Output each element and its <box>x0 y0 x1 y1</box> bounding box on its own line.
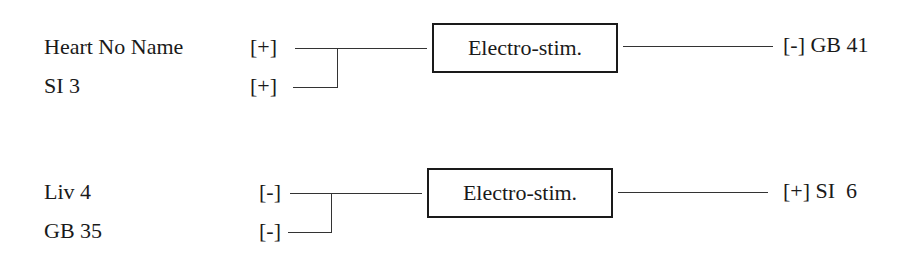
input-label-liv-4: Liv 4 <box>44 179 91 205</box>
electro-stim-device-box: Electro-stim. <box>427 168 613 218</box>
input-label-gb-35: GB 35 <box>44 218 102 244</box>
output-label-gb-41: [-] GB 41 <box>783 32 869 58</box>
connector-line-input-2 <box>293 87 338 88</box>
input-label-si-3: SI 3 <box>44 73 80 99</box>
connector-line-input-1 <box>295 48 427 49</box>
connector-line-output <box>618 192 768 193</box>
connector-line-input-2 <box>288 232 332 233</box>
input-label-heart-no-name: Heart No Name <box>44 34 183 60</box>
connector-line-junction <box>331 193 332 232</box>
input-polarity-liv-4: [-] <box>259 179 281 205</box>
device-label: Electro-stim. <box>468 35 582 61</box>
connector-line-input-1 <box>290 193 422 194</box>
input-polarity-si-3: [+] <box>250 73 277 99</box>
input-polarity-gb-35: [-] <box>259 218 281 244</box>
device-label: Electro-stim. <box>463 180 577 206</box>
connector-line-output <box>623 46 773 47</box>
connector-line-junction <box>337 48 338 87</box>
electro-stim-device-box: Electro-stim. <box>432 23 618 73</box>
output-label-si-6: [+] SI 6 <box>783 178 857 204</box>
input-polarity-heart-no-name: [+] <box>250 34 277 60</box>
